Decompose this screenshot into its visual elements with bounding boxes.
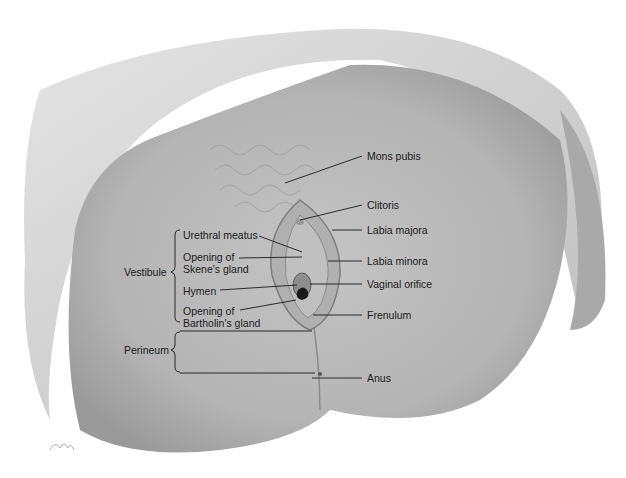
label-labia-majora: Labia majora [367, 224, 428, 236]
label-skene-line2: Skene's gland [183, 263, 249, 275]
anatomy-illustration: Mons pubis Clitoris Labia majora Labia m… [0, 0, 626, 478]
label-vestibule: Vestibule [124, 266, 167, 278]
label-skene-line1: Opening of [183, 251, 234, 263]
label-frenulum: Frenulum [367, 309, 411, 321]
label-bartholin-line1: Opening of [183, 305, 234, 317]
illustration-drawing [0, 0, 626, 478]
label-vaginal-orifice: Vaginal orifice [367, 278, 432, 290]
label-urethral-meatus: Urethral meatus [183, 229, 258, 241]
label-perineum: Perineum [124, 344, 169, 356]
label-clitoris: Clitoris [367, 199, 399, 211]
label-bartholin-line2: Bartholin's gland [183, 317, 260, 329]
label-mons-pubis: Mons pubis [367, 150, 421, 162]
label-hymen: Hymen [183, 285, 216, 297]
label-anus: Anus [367, 372, 391, 384]
label-labia-minora: Labia minora [367, 255, 428, 267]
